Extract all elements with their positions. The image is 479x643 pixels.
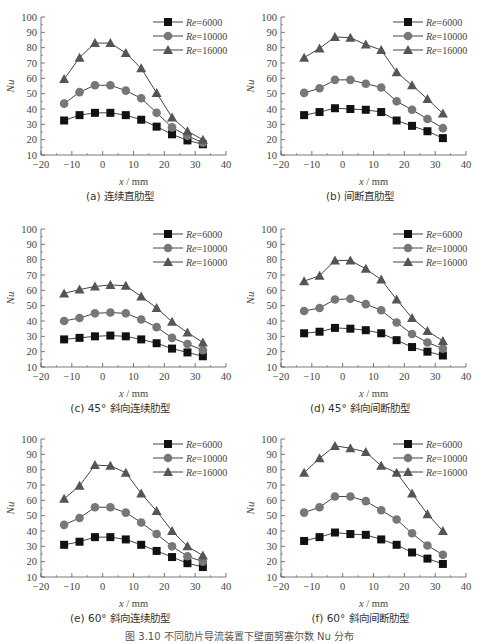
x-tick-label: 10 [128,581,139,592]
x-tick-label: 0 [340,159,345,170]
y-tick-label: 90 [267,449,278,460]
x-tick-label: 40 [461,581,472,592]
y-tick-label: 90 [267,239,278,250]
series-re-10000 [300,492,447,559]
chart-f-caption: (f) 60° 斜向间断肋型 [240,610,479,625]
svg-text:Re=6000: Re=6000 [185,17,222,28]
x-tick-label: 0 [340,581,345,592]
x-tick-label: 0 [100,371,105,382]
y-tick-label: 90 [27,449,38,460]
y-tick-label: 60 [267,73,278,84]
x-tick-label: −10 [304,371,320,382]
chart-a-plot: 102030405060708090100−20−10010203040x / … [0,0,240,190]
x-tick-label: −10 [64,581,80,592]
x-tick-label: 20 [399,581,410,592]
y-axis-label: Nu [244,501,256,515]
x-axis-label: x / mm [118,598,148,609]
y-tick-label: 80 [27,254,38,265]
y-tick-label: 80 [267,464,278,475]
y-tick-label: 60 [27,285,38,296]
legend-item: Re=10000 [153,453,227,464]
x-tick-label: 0 [100,159,105,170]
y-tick-label: 30 [267,331,278,342]
chart-panel-f: 102030405060708090100−20−10010203040x / … [240,422,479,632]
y-tick-label: 40 [27,316,38,327]
y-tick-label: 20 [27,346,38,357]
chart-a-caption: (a) 连续直肋型 [0,188,240,203]
x-tick-label: −20 [273,581,289,592]
y-tick-label: 30 [267,541,278,552]
y-tick-label: 80 [27,464,38,475]
chart-panel-d: 102030405060708090100−20−10010203040x / … [240,212,479,422]
x-tick-label: −20 [33,159,49,170]
svg-text:Re=16000: Re=16000 [425,467,467,478]
legend-item: Re=6000 [153,439,222,450]
y-tick-label: 30 [27,541,38,552]
x-tick-label: −20 [33,581,49,592]
y-tick-label: 100 [261,224,277,235]
y-tick-label: 70 [27,58,38,69]
svg-text:Re=16000: Re=16000 [185,467,227,478]
x-axis-label: x / mm [358,388,388,399]
legend-item: Re=10000 [393,243,467,254]
y-tick-label: 30 [27,331,38,342]
y-axis-label: Nu [244,79,256,93]
chart-d-plot: 102030405060708090100−20−10010203040x / … [240,212,479,402]
y-tick-label: 80 [27,42,38,53]
y-axis-label: Nu [4,501,16,515]
x-tick-label: 40 [221,581,232,592]
y-tick-label: 60 [27,495,38,506]
x-axis-label: x / mm [118,388,148,399]
x-tick-label: 40 [461,371,472,382]
legend-item: Re=16000 [153,467,227,478]
y-tick-label: 100 [261,12,277,23]
x-tick-label: 10 [128,371,139,382]
legend-item: Re=16000 [393,467,467,478]
series-re-10000 [300,294,447,352]
svg-text:Re=10000: Re=10000 [425,31,467,42]
y-tick-label: 30 [267,119,278,130]
legend-item: Re=16000 [153,257,227,268]
y-tick-label: 70 [267,480,278,491]
legend-item: Re=10000 [393,453,467,464]
y-tick-label: 50 [267,510,278,521]
x-tick-label: 20 [399,159,410,170]
legend-item: Re=10000 [153,243,227,254]
x-tick-label: 30 [190,581,201,592]
chart-panel-c: 102030405060708090100−20−10010203040x / … [0,212,240,422]
chart-panel-a: 102030405060708090100−20−10010203040x / … [0,0,240,210]
svg-text:Re=10000: Re=10000 [425,453,467,464]
y-tick-label: 90 [27,239,38,250]
legend-item: Re=6000 [393,17,462,28]
legend-item: Re=6000 [153,17,222,28]
y-tick-label: 100 [261,434,277,445]
y-tick-label: 100 [21,434,37,445]
x-tick-label: 40 [221,159,232,170]
y-tick-label: 70 [27,270,38,281]
svg-text:Re=6000: Re=6000 [185,439,222,450]
legend-item: Re=6000 [153,229,222,240]
chart-b-plot: 102030405060708090100−20−10010203040x / … [240,0,479,190]
x-tick-label: 0 [340,371,345,382]
y-tick-label: 70 [267,58,278,69]
y-tick-label: 30 [27,119,38,130]
x-tick-label: 20 [159,371,170,382]
x-axis-label: x / mm [358,598,388,609]
x-tick-label: 10 [368,159,379,170]
svg-text:Re=16000: Re=16000 [185,45,227,56]
figure-caption: 图 3.10 不同肋片导流装置下壁面努塞尔数 Nu 分布 [0,628,479,643]
x-tick-label: 20 [159,159,170,170]
chart-panel-b: 102030405060708090100−20−10010203040x / … [240,0,479,210]
y-axis-label: Nu [244,291,256,305]
legend-item: Re=10000 [393,31,467,42]
y-tick-label: 80 [267,254,278,265]
x-tick-label: 40 [221,371,232,382]
chart-c-plot: 102030405060708090100−20−10010203040x / … [0,212,240,402]
y-tick-label: 50 [27,510,38,521]
x-tick-label: 10 [368,581,379,592]
svg-text:Re=6000: Re=6000 [425,17,462,28]
svg-text:Re=6000: Re=6000 [185,229,222,240]
y-tick-label: 70 [27,480,38,491]
legend-item: Re=16000 [393,257,467,268]
svg-text:Re=16000: Re=16000 [425,45,467,56]
